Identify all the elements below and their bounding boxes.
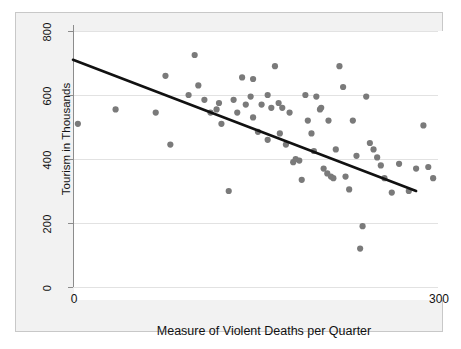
plot-canvas [74,31,454,300]
y-tick-label: 600 [40,79,54,113]
figure-frame: Tourism in Thousands Measure of Violent … [15,12,443,332]
chart-screenshot: Tourism in Thousands Measure of Violent … [0,0,461,349]
y-tick-label: 200 [40,207,54,241]
y-tick-label: 400 [40,143,54,177]
y-tick-label: 0 [40,271,54,305]
x-tick-label: 300 [425,292,453,306]
x-axis-title: Measure of Violent Deaths per Quarter [74,324,454,338]
y-axis-title: Tourism in Thousands [60,59,72,219]
x-tick-label: 0 [60,292,88,306]
y-tick-label: 800 [40,15,54,49]
